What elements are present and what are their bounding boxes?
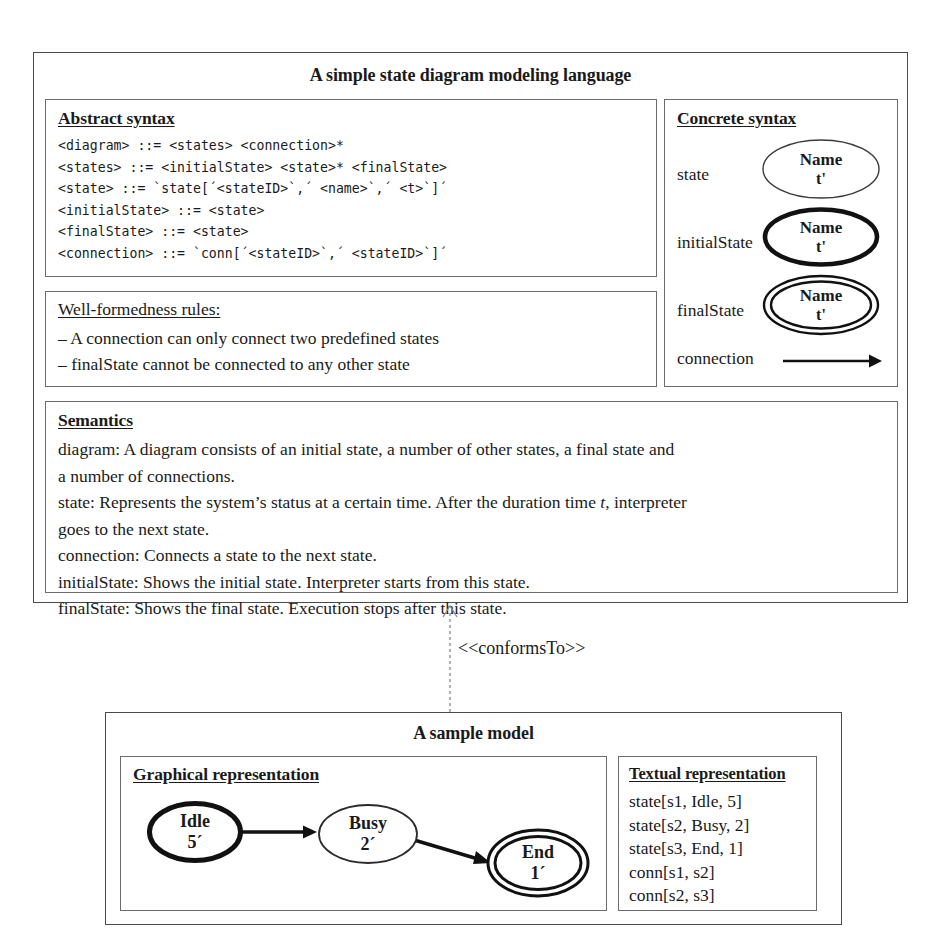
- semantics-state-post: , interpreter: [605, 492, 687, 512]
- textual-line: conn[s2, s3]: [629, 884, 749, 908]
- metamodel-title: A simple state diagram modeling language: [34, 65, 907, 86]
- concrete-syntax-row-initialstate: initialState Name t': [665, 206, 897, 272]
- textual-representation-panel: Textual representation state[s1, Idle, 5…: [618, 756, 817, 911]
- ellipse-thin-icon: [317, 803, 419, 865]
- concrete-syntax-row-finalstate: finalState Name t': [665, 274, 897, 340]
- ellipse-thin-icon: [761, 138, 881, 200]
- semantics-lines: diagram: A diagram consists of an initia…: [58, 436, 887, 622]
- conforms-to-link: <<conformsTo>>: [420, 600, 640, 718]
- ellipse-double-icon: [485, 827, 591, 899]
- wellformedness-title: Well-formedness rules:: [58, 299, 220, 320]
- wellformedness-rules: – A connection can only connect two pred…: [58, 325, 439, 377]
- concrete-syntax-row-state: state Name t': [665, 138, 897, 204]
- semantics-line-diagram: diagram: A diagram consists of an initia…: [58, 436, 887, 463]
- metamodel-frame: A simple state diagram modeling language…: [33, 52, 908, 603]
- abstract-syntax-title: Abstract syntax: [58, 108, 175, 129]
- state-ellipse-thick: Name t': [761, 206, 881, 268]
- conforms-to-arrow-icon: [420, 600, 480, 718]
- concrete-syntax-row-connection: connection: [665, 344, 897, 378]
- concrete-syntax-label: state: [677, 164, 709, 185]
- textual-line: state[s2, Busy, 2]: [629, 814, 749, 838]
- semantics-line-initialstate: initialState: Shows the initial state. I…: [58, 569, 887, 596]
- textual-representation-lines: state[s1, Idle, 5] state[s2, Busy, 2] st…: [629, 790, 749, 908]
- semantics-state-pre: state: Represents the system’s status at…: [58, 492, 600, 512]
- semantics-line-state: state: Represents the system’s status at…: [58, 489, 887, 516]
- semantics-line-state-cont: goes to the next state.: [58, 516, 887, 543]
- textual-line: state[s1, Idle, 5]: [629, 790, 749, 814]
- state-node-s1: Idle 5´: [146, 800, 244, 864]
- textual-representation-title: Textual representation: [629, 764, 786, 784]
- state-ellipse-double: Name t': [761, 274, 881, 336]
- concrete-syntax-label: connection: [677, 348, 754, 369]
- textual-line: state[s3, End, 1]: [629, 837, 749, 861]
- graphical-representation-title: Graphical representation: [133, 764, 319, 785]
- state-node-s2: Busy 2´: [317, 803, 419, 865]
- concrete-syntax-panel: Concrete syntax state Name t' initialSta…: [664, 99, 898, 387]
- ellipse-thick-icon: [761, 206, 881, 268]
- state-node-s3: End 1´: [485, 827, 591, 899]
- ellipse-thick-icon: [146, 800, 244, 864]
- state-ellipse-thin: Name t': [761, 138, 881, 200]
- sample-model-title: A sample model: [106, 723, 841, 744]
- connection-arrow: [783, 352, 883, 374]
- concrete-syntax-title: Concrete syntax: [677, 108, 796, 129]
- graphical-representation-panel: Graphical representation Idle 5´ Busy: [120, 756, 607, 911]
- abstract-syntax-grammar: <diagram> ::= <states> <connection>* <st…: [58, 135, 447, 264]
- concrete-syntax-label: finalState: [677, 300, 744, 321]
- wellformedness-panel: Well-formedness rules: – A connection ca…: [45, 291, 657, 387]
- semantics-line-connection: connection: Connects a state to the next…: [58, 542, 887, 569]
- sample-model-frame: A sample model Graphical representation …: [105, 712, 842, 925]
- ellipse-double-icon: [761, 274, 881, 336]
- textual-line: conn[s1, s2]: [629, 861, 749, 885]
- semantics-title: Semantics: [58, 410, 133, 431]
- abstract-syntax-panel: Abstract syntax <diagram> ::= <states> <…: [45, 99, 657, 277]
- conforms-to-label: <<conformsTo>>: [458, 638, 585, 659]
- arrow-right-icon: [783, 352, 883, 370]
- wellformedness-rule: – A connection can only connect two pred…: [58, 325, 439, 351]
- wellformedness-rule: – finalState cannot be connected to any …: [58, 351, 439, 377]
- semantics-panel: Semantics diagram: A diagram consists of…: [45, 401, 898, 593]
- semantics-line-diagram-cont: a number of connections.: [58, 463, 887, 490]
- concrete-syntax-label: initialState: [677, 232, 753, 253]
